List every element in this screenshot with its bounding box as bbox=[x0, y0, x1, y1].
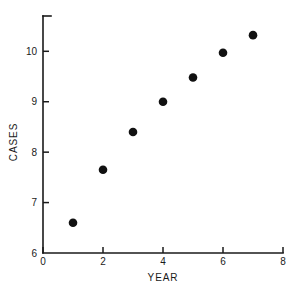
data-point bbox=[99, 165, 108, 174]
data-point bbox=[69, 218, 78, 227]
y-tick-label: 10 bbox=[26, 46, 38, 57]
x-tick-label: 8 bbox=[280, 256, 286, 267]
data-point bbox=[249, 31, 258, 40]
y-tick-label: 9 bbox=[31, 96, 37, 107]
y-tick-label: 8 bbox=[31, 147, 37, 158]
y-axis-title: CASES bbox=[8, 123, 19, 161]
scatter-plot-figure: 02468 678910 YEAR CASES bbox=[0, 0, 295, 295]
data-point bbox=[189, 73, 198, 82]
axes-group bbox=[43, 16, 283, 253]
x-axis-ticks: 02468 bbox=[40, 247, 286, 267]
x-tick-label: 4 bbox=[160, 256, 166, 267]
y-tick-label: 7 bbox=[31, 197, 37, 208]
y-tick-label: 6 bbox=[31, 248, 37, 259]
x-tick-label: 0 bbox=[40, 256, 46, 267]
data-point bbox=[159, 97, 168, 106]
x-tick-label: 2 bbox=[100, 256, 106, 267]
x-tick-label: 6 bbox=[220, 256, 226, 267]
data-point bbox=[219, 49, 228, 58]
data-point bbox=[129, 128, 138, 137]
y-axis-ticks: 678910 bbox=[26, 46, 49, 259]
plot-canvas: 02468 678910 YEAR CASES bbox=[0, 0, 295, 295]
data-points-group bbox=[69, 31, 258, 227]
x-axis-title: YEAR bbox=[148, 272, 179, 283]
